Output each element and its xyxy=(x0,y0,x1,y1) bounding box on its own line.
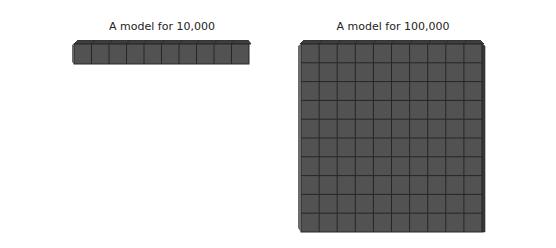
left-model-caption: A model for 10,000 xyxy=(72,20,252,33)
flat-svg xyxy=(298,40,488,234)
rod-svg xyxy=(72,40,252,65)
flat-model-100000 xyxy=(298,40,488,234)
rod-model-10000 xyxy=(72,40,252,65)
right-model-caption: A model for 100,000 xyxy=(298,20,488,33)
